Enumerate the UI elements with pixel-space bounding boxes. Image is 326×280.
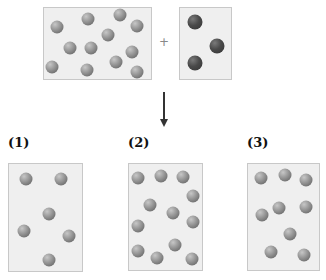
- light-particle: [300, 174, 313, 187]
- light-particle: [256, 209, 269, 222]
- light-particle: [298, 249, 311, 262]
- light-particle: [284, 228, 297, 241]
- plus-sign: +: [159, 35, 169, 49]
- light-particle: [177, 171, 190, 184]
- light-particle: [43, 208, 56, 221]
- light-particle: [265, 246, 278, 259]
- option-label-2: (2): [128, 135, 149, 150]
- light-particle: [51, 21, 64, 34]
- light-particle: [20, 173, 33, 186]
- light-particle: [144, 199, 157, 212]
- light-particle: [279, 169, 292, 182]
- light-particle: [186, 253, 199, 266]
- light-particle: [255, 172, 268, 185]
- light-particle: [187, 190, 200, 203]
- light-particle: [63, 230, 76, 243]
- light-particle: [132, 245, 145, 258]
- light-particle: [167, 207, 180, 220]
- light-particle: [169, 239, 182, 252]
- light-particle: [131, 20, 144, 33]
- dark-particle: [210, 39, 225, 54]
- light-particle: [102, 29, 115, 42]
- option-label-3: (3): [247, 135, 268, 150]
- light-particle: [151, 252, 164, 265]
- option-label-1: (1): [8, 135, 29, 150]
- light-particle: [110, 56, 123, 69]
- light-particle: [43, 254, 56, 267]
- light-particle: [114, 9, 127, 22]
- light-particle: [300, 201, 313, 214]
- light-particle: [85, 42, 98, 55]
- light-particle: [132, 220, 145, 233]
- light-particle: [55, 173, 68, 186]
- light-particle: [18, 225, 31, 238]
- light-particle: [273, 202, 286, 215]
- dark-particle: [188, 56, 203, 71]
- light-particle: [131, 66, 144, 79]
- dark-particle: [188, 15, 203, 30]
- light-particle: [155, 170, 168, 183]
- light-particle: [81, 64, 94, 77]
- light-particle: [187, 216, 200, 229]
- light-particle: [132, 172, 145, 185]
- light-particle: [126, 46, 139, 59]
- light-particle: [82, 13, 95, 26]
- light-particle: [46, 61, 59, 74]
- light-particle: [64, 42, 77, 55]
